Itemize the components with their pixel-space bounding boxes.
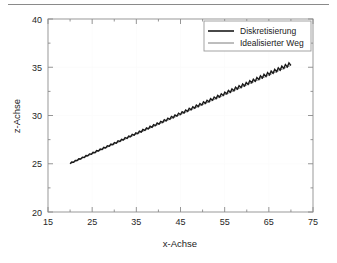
x-tick-label: 35 (131, 217, 141, 227)
x-tick-label: 55 (220, 217, 230, 227)
y-tick-label: 20 (32, 208, 42, 218)
x-axis-title: x-Achse (163, 238, 197, 249)
x-tick-labels: 15253545556575 (43, 217, 318, 227)
y-tick-label: 40 (32, 15, 42, 25)
y-tick-labels: 2025303540 (32, 15, 42, 218)
x-tick-label: 65 (264, 217, 274, 227)
x-tick-label: 75 (308, 217, 318, 227)
x-tick-label: 25 (87, 217, 97, 227)
legend-label-diskretisierung: Diskretisierung (240, 26, 296, 36)
x-tick-label: 15 (43, 217, 53, 227)
chart-legend[interactable]: Diskretisierung Idealisierter Weg (204, 21, 311, 51)
legend-label-idealisierter-weg: Idealisierter Weg (240, 38, 304, 48)
figure-container: 15253545556575 2025303540 x-Achse z-Achs… (0, 0, 337, 263)
y-tick-label: 30 (32, 111, 42, 121)
y-axis-title: z-Achse (11, 99, 22, 133)
chart-canvas: 15253545556575 2025303540 x-Achse z-Achs… (0, 0, 337, 263)
y-tick-label: 35 (32, 63, 42, 73)
x-tick-label: 45 (175, 217, 185, 227)
y-tick-label: 25 (32, 159, 42, 169)
